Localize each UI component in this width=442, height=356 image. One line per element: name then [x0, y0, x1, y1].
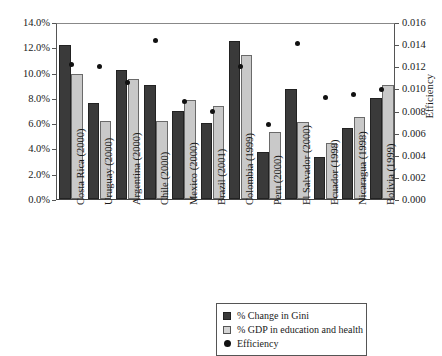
efficiency-dot: [266, 122, 271, 127]
efficiency-dot: [69, 62, 74, 67]
y-axis-left-tick-mark: [52, 99, 56, 100]
legend-label-efficiency: Efficiency: [237, 339, 278, 349]
bar-gini: [370, 98, 382, 199]
y-axis-left-tick-mark: [52, 23, 56, 24]
y-axis-left-tick-mark: [52, 200, 56, 201]
bar-gini: [314, 157, 326, 199]
x-axis-category-label: Costa Rica (2000): [75, 129, 86, 205]
efficiency-dot: [210, 109, 215, 114]
x-axis-category-label: Nicaragua (1998): [357, 131, 368, 205]
bar-gini: [59, 45, 71, 199]
y-axis-right-tick-label: 0.016: [402, 17, 442, 28]
bar-gini: [144, 85, 156, 199]
y-axis-right-tick-label: 0.000: [402, 194, 442, 205]
y-axis-left-tick-mark: [52, 124, 56, 125]
x-axis-category-label: Peru (2000): [272, 155, 283, 205]
y-axis-right-tick-label: 0.008: [402, 106, 442, 117]
x-axis-category-label: Brazil (2001): [216, 149, 227, 205]
legend-label-gdp: % GDP in education and health: [237, 325, 363, 335]
efficiency-dot: [238, 64, 243, 69]
y-axis-left-tick-label: 4.0%: [2, 143, 50, 154]
bar-gini: [257, 152, 269, 199]
dark-square-swatch-icon: [223, 312, 231, 320]
efficiency-dot: [295, 41, 300, 46]
x-axis-category-label: Mexico (2000): [188, 142, 199, 205]
y-axis-right-tick-label: 0.004: [402, 150, 442, 161]
chart-legend: % Change in Gini % GDP in education and …: [216, 303, 367, 356]
efficiency-dot: [182, 99, 187, 104]
x-axis-category-label: Uruguay (2000): [103, 138, 114, 205]
y-axis-right-tick-label: 0.002: [402, 172, 442, 183]
bar-gini: [88, 103, 100, 199]
y-axis-left-tick-mark: [52, 48, 56, 49]
y-axis-right-tick-label: 0.012: [402, 61, 442, 72]
legend-item-gdp: % GDP in education and health: [223, 323, 360, 336]
y-axis-right-title: Efficiency: [424, 74, 435, 119]
y-axis-right-tick-mark: [395, 134, 399, 135]
y-axis-left-tick-label: 0.0%: [2, 194, 50, 205]
y-axis-left-tick-mark: [52, 74, 56, 75]
y-axis-left-tick-label: 2.0%: [2, 169, 50, 180]
legend-label-gini: % Change in Gini: [237, 311, 309, 321]
y-axis-left-tick-label: 6.0%: [2, 118, 50, 129]
light-square-swatch-icon: [223, 326, 231, 334]
bar-gini: [116, 70, 128, 199]
efficiency-dot: [323, 95, 328, 100]
bar-gini: [285, 89, 297, 199]
efficiency-dot: [351, 92, 356, 97]
x-axis-category-label: Ecuador (1998): [329, 139, 340, 205]
bar-gini: [201, 123, 213, 199]
y-axis-right-tick-label: 0.014: [402, 39, 442, 50]
x-axis-category-label: Colombia (1999): [244, 133, 255, 205]
bar-gini: [172, 111, 184, 200]
x-axis-category-label: Chile (2000): [159, 152, 170, 205]
legend-item-gini: % Change in Gini: [223, 309, 360, 322]
y-axis-left-tick-label: 10.0%: [2, 68, 50, 79]
legend-item-efficiency: Efficiency: [223, 337, 360, 350]
y-axis-right-tick-mark: [395, 45, 399, 46]
x-axis-category-label: Bolivia (1999): [385, 143, 396, 205]
x-axis-category-label: Argentina (2000): [131, 133, 142, 205]
y-axis-right-tick-mark: [395, 89, 399, 90]
y-axis-left-tick-label: 12.0%: [2, 42, 50, 53]
y-axis-left-tick-mark: [52, 175, 56, 176]
y-axis-right-tick-mark: [395, 112, 399, 113]
y-axis-left-tick-mark: [52, 149, 56, 150]
y-axis-right-tick-mark: [395, 67, 399, 68]
efficiency-dot: [97, 64, 102, 69]
efficiency-dot: [153, 38, 158, 43]
y-axis-right-tick-mark: [395, 23, 399, 24]
bar-gini: [342, 128, 354, 199]
black-dot-swatch-icon: [224, 340, 231, 347]
x-axis-category-label: El Salvador (2000): [301, 125, 312, 205]
y-axis-left-tick-label: 8.0%: [2, 93, 50, 104]
y-axis-right-tick-label: 0.010: [402, 83, 442, 94]
y-axis-right-tick-label: 0.006: [402, 128, 442, 139]
y-axis-left-tick-label: 14.0%: [2, 17, 50, 28]
